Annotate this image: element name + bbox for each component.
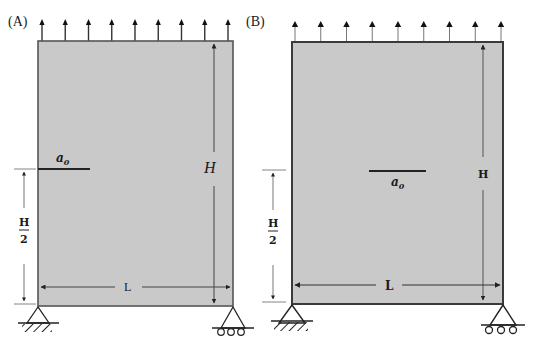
fracture-specimen-diagram: (A) a0 H 2 H L	[0, 0, 536, 349]
load-arrow	[421, 21, 427, 42]
load-arrow	[318, 21, 324, 42]
load-arrow-head	[132, 19, 137, 25]
panel-b-half-height-denominator: 2	[269, 234, 277, 247]
panel-a-height-label: H	[203, 159, 217, 176]
panel-b-plate	[292, 42, 503, 304]
load-arrow-head	[225, 19, 230, 25]
load-arrow	[395, 21, 401, 42]
load-arrow	[63, 19, 68, 41]
load-arrow-head	[343, 21, 349, 27]
panel-a-half-height-numerator: H	[19, 216, 29, 229]
load-arrow-head	[156, 19, 161, 25]
panel-a-load-arrows	[39, 19, 230, 41]
panel-a: (A) a0 H 2 H L	[8, 14, 254, 335]
load-arrow-head	[446, 21, 452, 27]
panel-a-half-height-denominator: 2	[20, 233, 28, 246]
load-arrow-head	[292, 21, 298, 27]
panel-b-pin-support	[271, 305, 313, 331]
load-arrow	[446, 21, 452, 42]
load-arrow-head	[109, 19, 114, 25]
panel-b: (B) a0 H 2 H L	[246, 14, 525, 334]
load-arrow-head	[369, 21, 375, 27]
load-arrow	[225, 19, 230, 41]
load-arrow-head	[39, 19, 44, 25]
load-arrow-head	[421, 21, 427, 27]
load-arrow	[369, 21, 375, 42]
load-arrow	[292, 21, 298, 42]
load-arrow-head	[498, 21, 504, 27]
load-arrow	[498, 21, 504, 42]
load-arrow	[179, 19, 184, 41]
panel-a-pin-support	[18, 307, 59, 332]
load-arrow	[156, 19, 161, 41]
load-arrow-head	[202, 19, 207, 25]
panel-a-width-label: L	[124, 280, 131, 294]
load-arrow-head	[86, 19, 91, 25]
load-arrow-head	[318, 21, 324, 27]
panel-b-roller-support	[481, 305, 525, 334]
load-arrow-head	[395, 21, 401, 27]
load-arrow	[343, 21, 349, 42]
load-arrow	[109, 19, 114, 41]
panel-b-load-arrows	[292, 21, 504, 42]
load-arrow-head	[63, 19, 68, 25]
load-arrow	[472, 21, 478, 42]
panel-b-label: (B)	[246, 14, 265, 30]
load-arrow	[86, 19, 91, 41]
load-arrow-head	[179, 19, 184, 25]
panel-b-width-label: L	[385, 279, 394, 293]
load-arrow	[132, 19, 137, 41]
panel-b-half-height-numerator: H	[268, 217, 278, 230]
panel-a-roller-support	[212, 307, 254, 335]
panel-a-label: (A)	[8, 14, 28, 30]
panel-b-height-label: H	[478, 168, 488, 181]
load-arrow-head	[472, 21, 478, 27]
load-arrow	[202, 19, 207, 41]
load-arrow	[39, 19, 44, 41]
